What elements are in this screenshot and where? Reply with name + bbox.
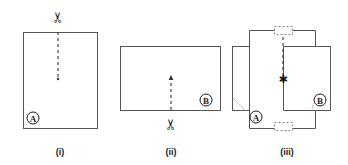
panel-i: ✂ A (i): [24, 11, 98, 157]
panel-iii: ✱ A B (iii): [233, 27, 331, 158]
badge-letter: A: [30, 114, 37, 124]
scissors-glyph: ✂: [49, 11, 67, 24]
slit-end-dot-panel-i: [57, 78, 59, 80]
badge-letter: B: [203, 96, 209, 106]
interlocking-cards-figure: ✂ A (i) B: [0, 0, 348, 165]
circled-letter-b-icon-panel-iii: B: [314, 94, 326, 106]
notch-bottom: [275, 123, 293, 131]
badge-letter: B: [317, 96, 323, 106]
panel-caption-i: (i): [56, 147, 65, 157]
scissors-icon-panel-i: ✂: [49, 11, 67, 24]
circled-letter-b-icon-panel-ii: B: [200, 94, 212, 106]
circled-letter-a-icon-panel-iii: A: [250, 111, 262, 123]
panel-caption-iii: (iii): [280, 147, 294, 157]
scissors-glyph: ✂: [162, 118, 180, 131]
panel-caption-ii: (ii): [166, 147, 177, 157]
figure-canvas: ✂ A (i) B: [0, 0, 348, 165]
circled-letter-a-icon-panel-i: A: [27, 112, 39, 124]
scissors-icon-panel-ii: ✂: [162, 118, 180, 131]
badge-letter: A: [253, 113, 260, 123]
star-marker-icon: ✱: [278, 73, 287, 86]
notch-top: [275, 27, 293, 35]
panel-ii: B ✂ (ii): [121, 47, 221, 158]
